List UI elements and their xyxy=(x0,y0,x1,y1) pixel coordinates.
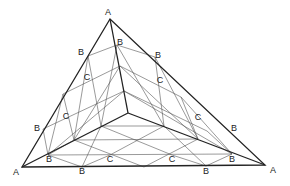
label-c: C xyxy=(157,76,164,85)
ternary-diagram xyxy=(0,0,290,186)
label-b: B xyxy=(46,155,52,164)
label-b: B xyxy=(203,167,209,176)
label-b: B xyxy=(117,38,123,47)
label-c: C xyxy=(195,113,202,122)
label-a: A xyxy=(270,166,276,175)
label-b: B xyxy=(231,124,237,133)
label-a: A xyxy=(105,8,111,17)
label-a: A xyxy=(13,168,19,177)
label-c: C xyxy=(63,112,70,121)
label-b: B xyxy=(78,48,84,57)
label-c: C xyxy=(84,73,91,82)
label-b: B xyxy=(34,124,40,133)
outline xyxy=(22,19,265,167)
grid-lines xyxy=(43,45,232,167)
label-b: B xyxy=(155,51,161,60)
label-c: C xyxy=(169,155,176,164)
label-b: B xyxy=(229,155,235,164)
label-c: C xyxy=(107,155,114,164)
label-b: B xyxy=(79,167,85,176)
